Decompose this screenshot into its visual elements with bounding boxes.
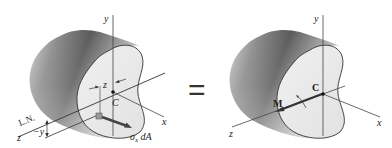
label-z-dimension: z (102, 79, 107, 90)
label-neg-y: −y (33, 126, 45, 137)
label-force: σx dA (130, 131, 153, 144)
diagram-canvas: y x z C z L.N. −y σx dA = y x z C M (0, 0, 392, 148)
equals-sign: = (188, 73, 206, 106)
left-figure: y x z C z L.N. −y σx dA (16, 13, 167, 144)
label-y-axis: y (103, 13, 109, 24)
label-x-axis: x (161, 116, 167, 127)
label-centroid: C (312, 82, 319, 93)
label-moment: M (273, 98, 283, 109)
label-y-axis: y (313, 13, 319, 24)
centroid-point (321, 92, 325, 96)
right-figure: y x z C M (228, 13, 382, 139)
label-x-axis: x (376, 117, 382, 128)
label-z-axis: z (228, 128, 233, 139)
centroid-point (111, 90, 115, 94)
label-centroid: C (112, 97, 119, 108)
area-element (96, 113, 102, 119)
label-z-axis: z (16, 132, 21, 143)
